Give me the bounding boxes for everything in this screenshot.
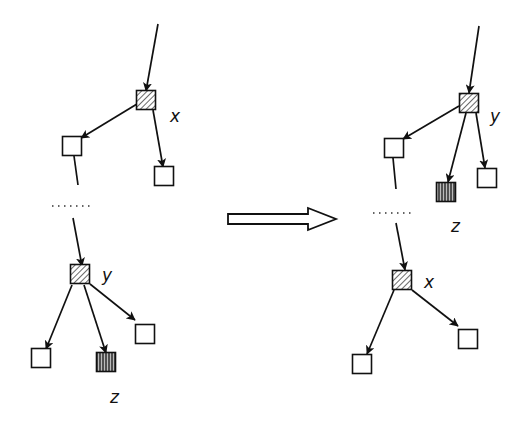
tree-rotation-diagram: xyz yzx bbox=[0, 0, 520, 422]
right_tree-edge bbox=[367, 290, 394, 354]
right_tree-edge bbox=[403, 106, 459, 139]
node-y bbox=[460, 94, 479, 113]
node-y bbox=[71, 265, 90, 284]
left-tree: xyz bbox=[32, 24, 182, 407]
node-x bbox=[393, 271, 412, 290]
node-label-y: y bbox=[101, 265, 113, 285]
left_tree-edge bbox=[90, 284, 135, 320]
left_tree-edge bbox=[81, 104, 137, 138]
left_tree-edge bbox=[146, 24, 158, 91]
node-leaf bbox=[478, 169, 497, 188]
node-leaf bbox=[136, 325, 155, 344]
node-label-z: z bbox=[450, 216, 461, 236]
node-z bbox=[97, 353, 116, 372]
right_tree-edge bbox=[393, 158, 396, 189]
left_tree-edge bbox=[73, 218, 82, 266]
right_tree-edge bbox=[396, 223, 405, 270]
node-leaf bbox=[32, 349, 51, 368]
right_tree-edge bbox=[476, 113, 485, 168]
node-leaf bbox=[459, 330, 478, 349]
right_tree-edge bbox=[412, 290, 458, 326]
node-label-x: x bbox=[169, 106, 181, 126]
node-leaf bbox=[155, 167, 174, 186]
node-leaf bbox=[385, 139, 404, 158]
transform-arrow bbox=[228, 208, 336, 230]
right_tree-edge bbox=[448, 113, 466, 182]
node-label-z: z bbox=[109, 387, 120, 407]
node-label-y: y bbox=[489, 106, 501, 126]
node-leaf bbox=[353, 355, 372, 374]
node-z bbox=[437, 183, 456, 202]
node-x bbox=[137, 91, 156, 110]
right-tree: yzx bbox=[353, 26, 502, 374]
node-leaf bbox=[63, 137, 82, 156]
left_tree-edge bbox=[46, 285, 72, 349]
left_tree-edge bbox=[74, 156, 78, 185]
right-arrow-icon bbox=[228, 208, 336, 230]
left_tree-edge bbox=[153, 110, 163, 167]
node-label-x: x bbox=[423, 272, 435, 292]
right_tree-edge bbox=[469, 26, 479, 93]
